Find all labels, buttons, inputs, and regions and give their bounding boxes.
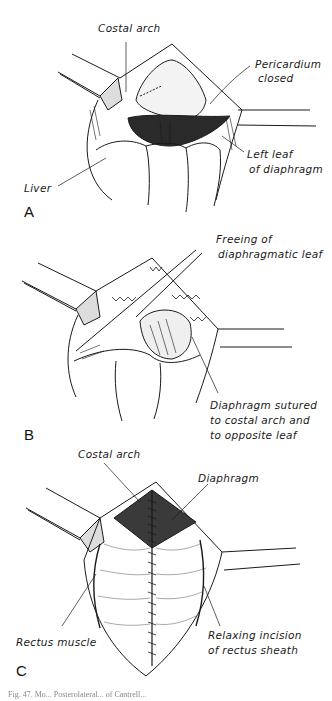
label-sutured-line1: Diaphragm sutured — [210, 399, 317, 411]
figure-caption: Fig. 47. Mo... Posterolateral... of Cant… — [8, 690, 328, 699]
label-diaphragm: Diaphragm — [198, 472, 259, 484]
label-pericardium-closed-line1: Pericardium — [255, 58, 321, 70]
label-costal-arch-a: Costal arch — [98, 22, 161, 34]
label-pericardium-closed-line2: closed — [258, 72, 294, 84]
label-freeing-line1: Freeing of — [216, 233, 272, 245]
label-freeing-line2: diaphragmatic leaf — [218, 248, 322, 260]
label-relaxing-line2: of rectus sheath — [208, 644, 298, 656]
panel-b: Freeing of diaphragmatic leaf Diaphragm … — [0, 225, 332, 440]
label-relaxing-line1: Relaxing incision — [208, 629, 302, 641]
panel-letter-a: A — [24, 203, 34, 220]
label-sutured-line2: to costal arch and — [210, 414, 310, 426]
label-rectus-muscle: Rectus muscle — [16, 636, 97, 648]
label-liver: Liver — [24, 182, 51, 194]
panel-a: Costal arch Pericardium closed Left leaf… — [0, 0, 332, 225]
panel-letter-c: C — [16, 662, 27, 679]
label-left-leaf-line1: Left leaf — [247, 148, 293, 160]
label-costal-arch-c: Costal arch — [78, 448, 141, 460]
label-left-leaf-line2: of diaphragm — [249, 163, 323, 175]
panel-c: Costal arch Diaphragm Rectus muscle Rela… — [0, 440, 332, 685]
